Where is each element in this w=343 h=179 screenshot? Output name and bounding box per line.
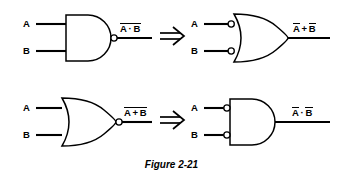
top-right-input-a-bubble	[228, 21, 234, 27]
top-right-input-b-label: B	[191, 46, 198, 56]
bottom-right-output-expression: A·B	[292, 107, 313, 118]
top-right-or-body	[234, 14, 288, 62]
bottom-right-input-b-label: B	[191, 130, 198, 140]
bottom-right-input-a-label: A	[191, 103, 198, 113]
figure-caption: Figure 2-21	[0, 159, 343, 170]
bottom-right-operand-a: A	[292, 107, 299, 118]
figure-2-21: A B A·B A B A+B A B A+B A B A·B Figure 2…	[0, 0, 343, 179]
bottom-left-or-body	[62, 98, 116, 146]
bottom-left-input-a-label: A	[23, 103, 30, 113]
top-right-input-a-label: A	[191, 19, 198, 29]
top-left-input-b-label: B	[23, 46, 30, 56]
top-right-input-b-bubble	[228, 48, 234, 54]
bottom-left-output-expression: A+B	[124, 107, 147, 118]
bottom-right-and-body	[230, 99, 275, 145]
logic-diagram-svg	[0, 0, 343, 179]
top-left-operand-a: A	[120, 23, 127, 34]
top-equivalence-arrow-icon	[160, 27, 184, 45]
bottom-left-input-b-label: B	[23, 130, 30, 140]
bottom-right-input-b-bubble	[224, 132, 230, 138]
bottom-right-operand-b: B	[305, 107, 312, 118]
bottom-left-output-bubble	[116, 119, 122, 125]
bottom-left-output-overbar: A+B	[124, 107, 147, 118]
bottom-right-input-a-bubble	[224, 105, 230, 111]
top-right-output-expression: A+B	[293, 23, 316, 34]
top-right-negative-or-gate	[204, 14, 330, 62]
top-left-output-bubble	[111, 35, 117, 41]
bottom-right-negative-and-gate	[204, 99, 330, 145]
top-left-nand-gate	[36, 15, 152, 61]
top-right-operand-a: A	[293, 23, 300, 34]
top-left-and-body	[66, 15, 111, 61]
bottom-left-nor-gate	[36, 98, 152, 146]
top-left-operand-b: B	[133, 23, 140, 34]
top-left-input-a-label: A	[23, 19, 30, 29]
bottom-left-operand-b: B	[140, 107, 147, 118]
top-left-output-expression: A·B	[120, 23, 141, 34]
top-right-operand-b: B	[309, 23, 316, 34]
bottom-left-operand-a: A	[124, 107, 131, 118]
bottom-equivalence-arrow-icon	[160, 111, 184, 129]
bottom-left-operator: +	[131, 108, 140, 118]
top-right-operator: +	[300, 24, 309, 34]
top-left-output-overbar: A·B	[120, 23, 141, 34]
